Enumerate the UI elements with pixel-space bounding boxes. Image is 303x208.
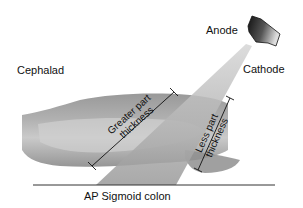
cathode-label: Cathode (243, 64, 285, 75)
anode-label: Anode (206, 25, 238, 36)
cephalad-label: Cephalad (17, 65, 64, 76)
less-thickness-tick-top (226, 96, 234, 100)
caption: AP Sigmoid colon (84, 191, 171, 202)
xray-tube-icon (248, 16, 280, 46)
